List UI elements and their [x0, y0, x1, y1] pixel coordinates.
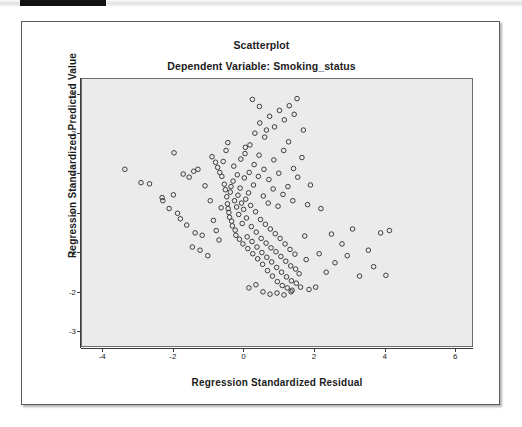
- scatter-point: [203, 184, 208, 189]
- scatter-point: [313, 285, 318, 290]
- scatter-point: [250, 251, 255, 256]
- scatter-point: [243, 145, 248, 150]
- scatter-point: [231, 164, 236, 169]
- scatter-point: [210, 154, 215, 159]
- scatter-point: [219, 206, 224, 211]
- scatter-point: [319, 206, 324, 211]
- x-tick-label: 4: [382, 352, 386, 361]
- scatter-point: [267, 114, 272, 119]
- scatter-point: [283, 259, 288, 264]
- scatter-point: [278, 236, 283, 241]
- scatter-point: [260, 262, 265, 267]
- scatter-point: [147, 182, 152, 187]
- scatter-point: [251, 183, 256, 188]
- scatter-point: [340, 242, 345, 247]
- scatter-point: [307, 287, 312, 292]
- scatter-point: [139, 180, 144, 185]
- scatter-point: [282, 293, 287, 298]
- scatter-point: [178, 217, 183, 222]
- scatter-point: [229, 219, 234, 224]
- scatter-point: [293, 267, 298, 272]
- scatter-point: [270, 274, 275, 279]
- x-axis-line: [81, 348, 473, 349]
- y-tick-label: 3: [67, 89, 76, 98]
- scatter-point: [243, 151, 248, 156]
- y-tick-mark: [77, 292, 81, 293]
- x-tick-label: 2: [312, 352, 316, 361]
- scatter-point: [258, 121, 263, 126]
- scatter-point: [295, 96, 300, 101]
- scatter-point: [350, 227, 355, 232]
- scatter-point: [387, 228, 392, 233]
- scatter-point: [285, 286, 290, 291]
- scatter-point: [231, 179, 236, 184]
- scatter-point: [246, 191, 251, 196]
- scatter-point: [286, 184, 291, 189]
- scatter-point: [220, 174, 225, 179]
- scatter-point: [282, 118, 287, 123]
- scatter-point: [263, 222, 268, 227]
- scatter-point: [269, 260, 274, 265]
- chart-title: Scatterplot: [22, 39, 501, 51]
- scatter-point: [301, 128, 306, 133]
- scatter-point: [196, 167, 201, 172]
- y-tick-label: -1: [67, 248, 76, 257]
- scatter-point: [357, 274, 362, 279]
- x-tick-label: 6: [453, 352, 457, 361]
- y-axis-title: Regression Standardized Predicted Value: [67, 26, 78, 286]
- scatter-point: [266, 201, 271, 206]
- scatter-point: [161, 198, 166, 203]
- scatter-point: [258, 217, 263, 222]
- scatter-point: [222, 182, 227, 187]
- y-tick-label: -2: [67, 287, 76, 296]
- scatter-point: [239, 157, 244, 162]
- scatter-point: [241, 242, 246, 247]
- scatter-point: [273, 231, 278, 236]
- scatter-point: [281, 192, 286, 197]
- scatter-point: [221, 159, 226, 164]
- scatter-point: [280, 283, 285, 288]
- scatter-point: [274, 249, 279, 254]
- scatter-point: [237, 237, 242, 242]
- scatter-point: [300, 155, 305, 160]
- scatter-point: [257, 104, 262, 109]
- scatter-point: [224, 148, 229, 153]
- window-top-accent-bar: [20, 0, 106, 6]
- scatter-point: [225, 202, 230, 207]
- scatter-point: [217, 238, 222, 243]
- scatter-point: [240, 221, 245, 226]
- scatter-point: [208, 198, 213, 203]
- scatter-point: [292, 112, 297, 117]
- scatter-point: [193, 231, 198, 236]
- scatter-point: [253, 209, 258, 214]
- scatter-point: [215, 165, 220, 170]
- scatter-point: [274, 265, 279, 270]
- scatter-point: [205, 253, 210, 258]
- scatter-point: [234, 205, 239, 210]
- scatter-point: [259, 236, 264, 241]
- scatter-point: [229, 184, 234, 189]
- scatter-point: [297, 271, 302, 276]
- y-tick-mark: [77, 133, 81, 134]
- scatter-point: [260, 250, 265, 255]
- scatter-point: [366, 248, 371, 253]
- scatter-point: [123, 167, 128, 172]
- scatter-point: [264, 241, 269, 246]
- scatter-point: [190, 245, 195, 250]
- x-tick-label: -2: [169, 352, 176, 361]
- scatter-point: [295, 175, 300, 180]
- scatter-point: [269, 246, 274, 251]
- scatter-point: [172, 151, 177, 156]
- scatter-point: [271, 187, 276, 192]
- scatter-point: [275, 291, 280, 296]
- scatter-point: [211, 218, 216, 223]
- chart-subtitle: Dependent Variable: Smoking_status: [22, 60, 501, 72]
- scatter-point: [236, 212, 241, 217]
- scatter-point: [371, 264, 376, 269]
- scatter-point: [255, 245, 260, 250]
- scatter-point: [253, 131, 258, 136]
- y-tick-label: 0: [67, 208, 76, 217]
- scatter-point: [234, 233, 239, 238]
- scatter-point: [224, 195, 229, 200]
- scatter-point: [294, 281, 299, 286]
